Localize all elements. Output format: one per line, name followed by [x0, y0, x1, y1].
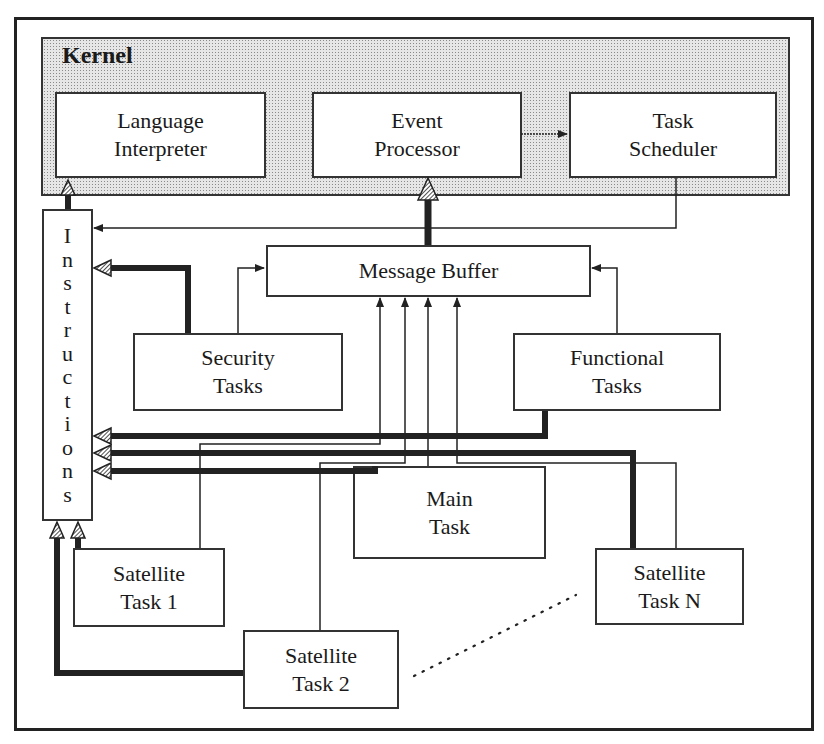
- instructions-letter: t: [64, 389, 70, 413]
- satellite-task-2-line1: Satellite: [285, 642, 357, 670]
- instructions-letter: n: [62, 459, 73, 483]
- security-tasks-box: Security Tasks: [133, 333, 343, 411]
- instructions-box: I n s t r u c t i o n s: [42, 209, 93, 521]
- task-scheduler-box: Task Scheduler: [569, 92, 777, 178]
- satellite-task-n-box: Satellite Task N: [595, 548, 744, 625]
- satellite-task-2-line2: Task 2: [285, 670, 357, 698]
- satellite-task-n-line1: Satellite: [633, 559, 705, 587]
- event-processor-line1: Event: [374, 107, 460, 135]
- satellite-task-1-line2: Task 1: [113, 588, 185, 616]
- functional-tasks-box: Functional Tasks: [513, 333, 721, 411]
- instructions-letter: r: [64, 318, 71, 342]
- message-buffer-label: Message Buffer: [359, 257, 499, 285]
- instructions-letter: c: [63, 365, 73, 389]
- task-scheduler-line1: Task: [629, 107, 717, 135]
- security-tasks-line2: Tasks: [201, 372, 274, 400]
- satellite-task-2-box: Satellite Task 2: [243, 630, 399, 709]
- instructions-letter: s: [63, 483, 72, 507]
- event-processor-line2: Processor: [374, 135, 460, 163]
- functional-tasks-line2: Tasks: [570, 372, 664, 400]
- instructions-letter: n: [62, 248, 73, 272]
- functional-tasks-line1: Functional: [570, 344, 664, 372]
- main-task-box: Main Task: [353, 466, 546, 559]
- main-task-line2: Task: [426, 513, 472, 541]
- security-tasks-line1: Security: [201, 344, 274, 372]
- instructions-letter: s: [63, 271, 72, 295]
- instructions-letter: o: [62, 436, 73, 460]
- instructions-letter: i: [64, 412, 70, 436]
- satellite-task-1-box: Satellite Task 1: [73, 548, 225, 627]
- satellite-task-1-line1: Satellite: [113, 560, 185, 588]
- main-task-line1: Main: [426, 485, 472, 513]
- message-buffer-box: Message Buffer: [266, 245, 591, 297]
- task-scheduler-line2: Scheduler: [629, 135, 717, 163]
- language-interpreter-box: Language Interpreter: [55, 92, 266, 178]
- instructions-letter: t: [64, 295, 70, 319]
- language-interpreter-line1: Language: [114, 107, 207, 135]
- instructions-letter: u: [62, 342, 73, 366]
- instructions-letter: I: [64, 224, 71, 248]
- satellite-task-n-line2: Task N: [633, 587, 705, 615]
- kernel-label: Kernel: [62, 42, 133, 69]
- event-processor-box: Event Processor: [312, 92, 522, 178]
- language-interpreter-line2: Interpreter: [114, 135, 207, 163]
